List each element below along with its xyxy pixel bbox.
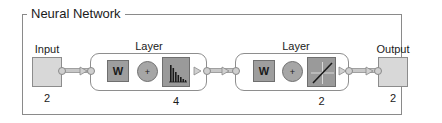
layer2-size: 2 — [307, 95, 336, 107]
histogram-transfer-icon — [163, 58, 191, 88]
layer1-label: Layer — [124, 40, 174, 52]
layer2-weight-block[interactable]: W — [253, 60, 275, 82]
layer1-sum-block[interactable]: + — [137, 61, 158, 82]
layer2-sum-block[interactable]: + — [282, 61, 303, 82]
layer1-input-port — [87, 67, 95, 75]
diagram-title: Neural Network — [27, 6, 125, 22]
layer2-transfer-block[interactable] — [307, 57, 336, 87]
output-size: 2 — [378, 92, 408, 104]
linear-transfer-icon — [308, 58, 337, 88]
arrow-right-icon — [222, 67, 230, 75]
layer1-transfer-block[interactable] — [162, 57, 190, 87]
layer1-size: 4 — [162, 95, 190, 107]
layer2-label: Layer — [271, 40, 321, 52]
arrow-right-icon — [366, 67, 374, 75]
layer1-output-port — [203, 67, 211, 75]
layer2-output-port — [345, 67, 353, 75]
layer2-input-port — [232, 67, 240, 75]
output-label: Output — [370, 43, 416, 55]
layer1-weight-block[interactable]: W — [107, 60, 129, 82]
input-size: 2 — [32, 92, 62, 104]
arrow-right-icon — [194, 67, 202, 75]
output-block[interactable] — [378, 57, 408, 87]
output-input-port — [374, 67, 382, 75]
input-output-port — [58, 67, 66, 75]
input-label: Input — [26, 43, 68, 55]
